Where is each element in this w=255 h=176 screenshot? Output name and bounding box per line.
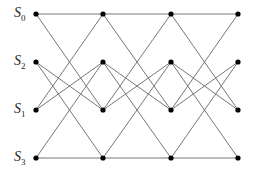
state-node [168, 59, 173, 64]
state-node [33, 155, 38, 160]
state-node [235, 107, 240, 112]
state-node [168, 107, 173, 112]
state-node [100, 59, 105, 64]
state-node [100, 107, 105, 112]
trellis-graph [0, 0, 255, 176]
state-node [33, 59, 38, 64]
state-label-s2: S2 [14, 53, 26, 71]
state-node [235, 59, 240, 64]
state-node [168, 155, 173, 160]
state-node [100, 155, 105, 160]
state-label-s1: S1 [14, 101, 26, 119]
state-label-s0: S0 [14, 5, 26, 23]
state-node [168, 11, 173, 16]
state-label-s3: S3 [14, 149, 26, 167]
state-node [33, 11, 38, 16]
state-node [33, 107, 38, 112]
state-node [235, 11, 240, 16]
state-node [235, 155, 240, 160]
state-node [100, 11, 105, 16]
